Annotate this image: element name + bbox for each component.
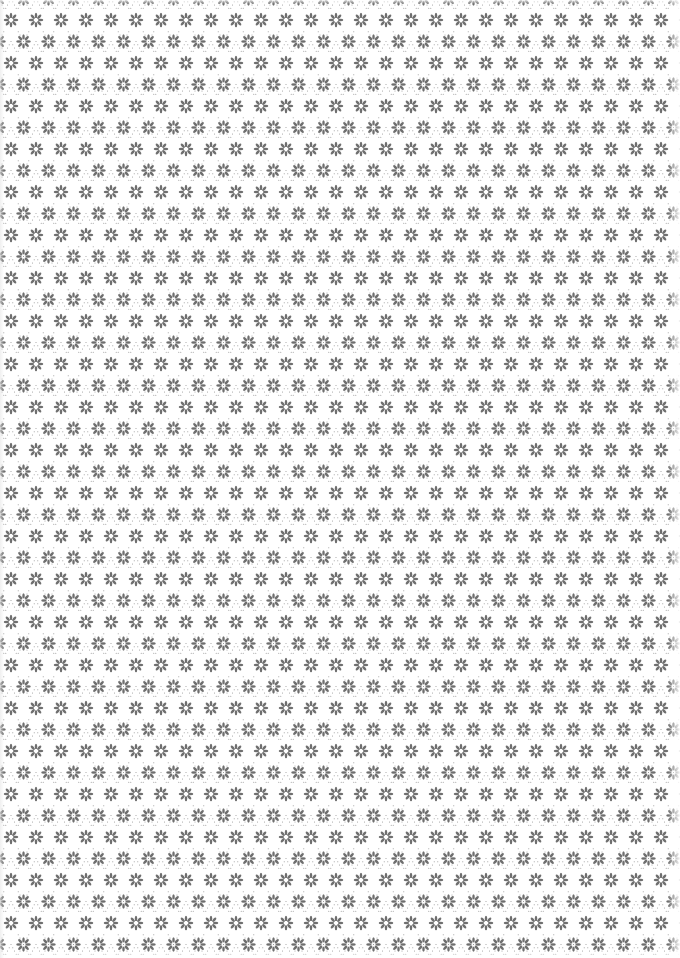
floral-pattern-background (0, 0, 680, 958)
